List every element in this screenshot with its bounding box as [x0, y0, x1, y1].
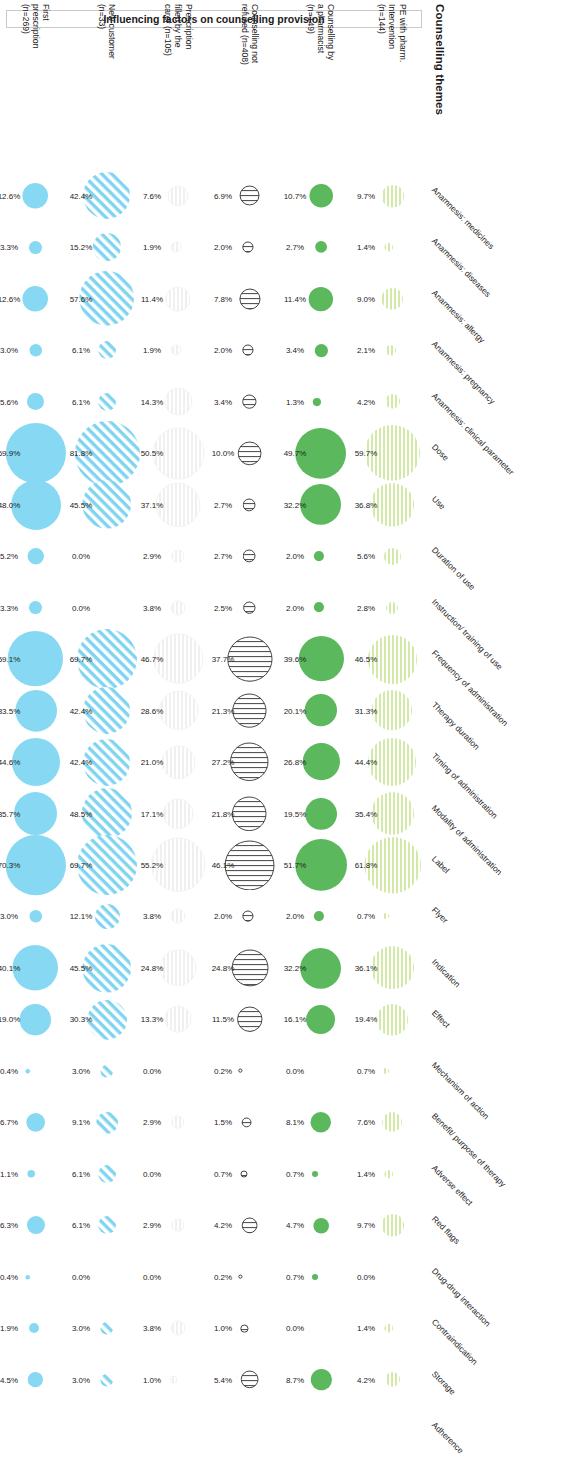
bubble: [174, 1375, 183, 1384]
value-label: 0.7%: [214, 1169, 232, 1178]
value-label: 2.0%: [285, 552, 303, 561]
bubble: [97, 1164, 117, 1184]
bubble: [22, 182, 50, 210]
value-label: 0.7%: [285, 1272, 303, 1281]
bubble: [313, 343, 328, 358]
value-label: 3.0%: [0, 346, 18, 355]
value-label: 10.7%: [283, 191, 306, 200]
bubble: [244, 910, 256, 922]
value-label: 45.5%: [69, 963, 92, 972]
value-label: 37.7%: [212, 655, 235, 664]
value-label: 6.3%: [0, 1221, 18, 1230]
value-label: 19.5%: [283, 809, 306, 818]
value-label: 5.4%: [214, 1375, 232, 1384]
value-label: 37.1%: [141, 500, 164, 509]
value-label: 1.4%: [357, 1169, 375, 1178]
bubble: [231, 949, 269, 987]
value-label: 42.4%: [69, 191, 92, 200]
bubble: [245, 1324, 254, 1333]
value-label: 3.0%: [0, 912, 18, 921]
value-label: 59.1%: [0, 655, 21, 664]
bubble: [306, 1004, 337, 1035]
value-label: 9.7%: [357, 1221, 375, 1230]
value-label: 6.1%: [71, 397, 89, 406]
value-label: 12.6%: [0, 191, 21, 200]
theme-label: Adverse effect: [430, 1163, 474, 1207]
series-label-line: (n=33): [97, 4, 107, 154]
bubble: [170, 1320, 186, 1336]
value-label: 81.8%: [69, 449, 92, 458]
bubble: [100, 1064, 114, 1078]
value-label: 27.2%: [212, 758, 235, 767]
bubble: [387, 1169, 398, 1180]
theme-label: Red flags: [430, 1215, 462, 1247]
series-label: Counselling bya pharmacist(n=149): [306, 4, 337, 154]
value-label: 19.0%: [0, 1015, 21, 1024]
bubble: [247, 1274, 252, 1279]
bubble: [385, 601, 399, 615]
bubble: [247, 1068, 252, 1073]
value-label: 2.7%: [214, 500, 232, 509]
theme-label: Adherence: [430, 1421, 465, 1456]
bubble: [165, 286, 191, 312]
value-label: 51.7%: [283, 860, 306, 869]
bubble: [97, 1215, 117, 1235]
value-label: 4.7%: [285, 1221, 303, 1230]
value-label: 6.1%: [71, 1221, 89, 1230]
axis-group-bracket: Influencing factors on counselling provi…: [0, 10, 428, 28]
theme-label: Effect: [430, 1009, 452, 1031]
bubble: [308, 286, 334, 312]
value-label: 2.0%: [214, 912, 232, 921]
bubble: [30, 1322, 42, 1334]
value-label: 21.0%: [141, 758, 164, 767]
bubble: [240, 1370, 259, 1389]
bubble: [32, 1274, 39, 1281]
value-label: 10.0%: [212, 449, 235, 458]
value-label: 3.4%: [214, 397, 232, 406]
series-label-line: First: [41, 4, 51, 154]
value-label: 16.1%: [283, 1015, 306, 1024]
value-label: 9.0%: [357, 294, 375, 303]
value-label: 7.6%: [143, 191, 161, 200]
bubble: [159, 949, 197, 987]
bubble: [387, 242, 398, 253]
value-label: 46.1%: [212, 860, 235, 869]
bubble: [26, 392, 45, 411]
theme-label: Contraindication: [430, 1318, 479, 1367]
value-label: 2.0%: [214, 243, 232, 252]
value-label: 6.1%: [71, 346, 89, 355]
series-label-line: Prescription: [183, 4, 193, 154]
chart-title: Counselling themes: [434, 4, 446, 115]
value-label: 9.7%: [357, 191, 375, 200]
series-label-line: (n=149): [306, 4, 316, 154]
value-label: 2.0%: [285, 603, 303, 612]
bubble-chart: Counselling themes Anamnesis: medicinesA…: [0, 0, 580, 1463]
value-label: 49.7%: [283, 449, 306, 458]
bubble: [316, 397, 326, 407]
bubble: [243, 601, 256, 614]
value-label: 6.9%: [214, 191, 232, 200]
value-label: 0.7%: [285, 1169, 303, 1178]
value-label: 3.3%: [0, 603, 18, 612]
bubble: [86, 999, 128, 1041]
bubble: [26, 1215, 46, 1235]
value-label: 14.3%: [141, 397, 164, 406]
bubble: [380, 1213, 404, 1237]
value-label: 2.0%: [285, 912, 303, 921]
value-label: 0.4%: [0, 1066, 18, 1075]
value-label: 11.4%: [141, 294, 163, 303]
value-label: 3.8%: [143, 603, 161, 612]
bubble: [310, 1111, 332, 1133]
value-label: 1.3%: [285, 397, 303, 406]
value-label: 1.4%: [357, 1324, 375, 1333]
value-label: 6.1%: [71, 1169, 89, 1178]
value-label: 1.9%: [0, 1324, 18, 1333]
value-label: 0.4%: [0, 1272, 18, 1281]
bubble: [386, 344, 398, 356]
bubble: [384, 1371, 401, 1388]
value-label: 1.9%: [143, 346, 161, 355]
value-label: 20.1%: [283, 706, 306, 715]
rotated-chart-stage: Counselling themes Anamnesis: medicinesA…: [0, 0, 580, 1463]
value-label: 57.6%: [69, 294, 92, 303]
value-label: 1.1%: [0, 1169, 18, 1178]
